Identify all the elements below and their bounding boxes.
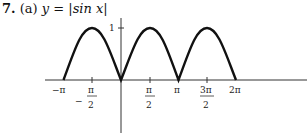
x-label-half-pi-num: π bbox=[146, 85, 152, 95]
y-label-1: 1 bbox=[109, 23, 115, 33]
x-label-neg-half-pi-num: π bbox=[88, 85, 94, 95]
x-label-three-half-pi-den: 2 bbox=[203, 100, 209, 110]
x-label-three-half-pi-num: 3π bbox=[200, 85, 212, 95]
graph: 1 −π − π 2 π 2 π 3π 2 2π bbox=[0, 0, 307, 133]
x-label-neg-half-pi-minus: − bbox=[75, 96, 83, 106]
x-label-two-pi: 2π bbox=[229, 85, 241, 95]
x-label-neg-half-pi-den: 2 bbox=[88, 100, 94, 110]
x-label-neg-pi: −π bbox=[52, 85, 66, 95]
abs-sin-curve bbox=[64, 28, 237, 80]
x-label-pi: π bbox=[174, 85, 180, 95]
x-label-half-pi-den: 2 bbox=[146, 100, 152, 110]
